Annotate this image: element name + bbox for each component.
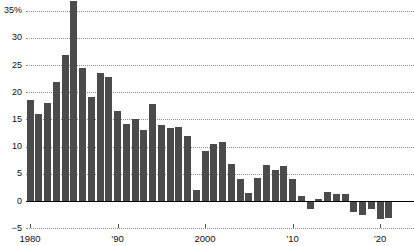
bar bbox=[237, 179, 244, 201]
bar bbox=[342, 194, 349, 201]
gridline bbox=[26, 38, 414, 39]
bar-chart: −505101520253035% 1980’902000’10’20 bbox=[0, 0, 414, 246]
y-tick-label: 25 bbox=[12, 61, 22, 70]
bar bbox=[44, 103, 51, 201]
bar bbox=[202, 151, 209, 201]
bar bbox=[350, 201, 357, 212]
y-tick-label: 35% bbox=[4, 6, 22, 15]
bar bbox=[79, 68, 86, 201]
y-tick-label: −5 bbox=[12, 224, 22, 233]
bar bbox=[245, 193, 252, 201]
x-tick-label: ’20 bbox=[374, 234, 387, 244]
bar bbox=[35, 114, 42, 201]
y-tick-label: 10 bbox=[12, 142, 22, 151]
bar bbox=[27, 100, 34, 201]
bar bbox=[149, 104, 156, 201]
bar bbox=[272, 170, 279, 201]
bar bbox=[184, 136, 191, 201]
bar bbox=[114, 111, 121, 201]
bar bbox=[210, 144, 217, 201]
bar bbox=[228, 164, 235, 201]
bar bbox=[359, 201, 366, 215]
bar bbox=[377, 201, 384, 219]
bar bbox=[289, 179, 296, 201]
bar bbox=[333, 194, 340, 201]
x-tick-label: ’90 bbox=[111, 234, 124, 244]
bar bbox=[280, 166, 287, 201]
zero-axis-line bbox=[26, 201, 414, 202]
bar bbox=[62, 55, 69, 201]
bar bbox=[368, 201, 375, 209]
bar bbox=[70, 1, 77, 201]
y-tick-label: 5 bbox=[17, 169, 22, 178]
bar bbox=[53, 82, 60, 201]
bar bbox=[140, 130, 147, 201]
x-tick-label: 1980 bbox=[19, 234, 40, 244]
bar bbox=[324, 192, 331, 201]
x-tick-label: 2000 bbox=[194, 234, 215, 244]
y-tick-label: 15 bbox=[12, 115, 22, 124]
y-axis-labels: −505101520253035% bbox=[0, 0, 22, 246]
bar bbox=[132, 119, 139, 201]
bar bbox=[88, 97, 95, 201]
bar bbox=[193, 190, 200, 201]
bar bbox=[158, 125, 165, 201]
bar bbox=[97, 73, 104, 201]
bar bbox=[263, 165, 270, 201]
bar bbox=[219, 142, 226, 201]
y-tick-label: 30 bbox=[12, 33, 22, 42]
bar bbox=[123, 124, 130, 201]
gridline bbox=[26, 65, 414, 66]
bar bbox=[175, 127, 182, 201]
x-tick-label: ’10 bbox=[286, 234, 299, 244]
bar bbox=[385, 201, 392, 218]
y-tick-label: 0 bbox=[17, 197, 22, 206]
y-tick-label: 20 bbox=[12, 88, 22, 97]
bar bbox=[254, 178, 261, 201]
plot-area bbox=[26, 0, 414, 229]
bar bbox=[307, 201, 314, 209]
bar bbox=[167, 128, 174, 201]
gridline bbox=[26, 228, 414, 229]
gridline bbox=[26, 11, 414, 12]
bar bbox=[105, 77, 112, 201]
